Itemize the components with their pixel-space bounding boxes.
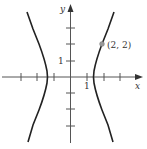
y-tick-label-1: 1 <box>58 56 64 66</box>
x-axis-arrow-icon <box>135 74 143 80</box>
point-2-2 <box>100 42 105 47</box>
point-label: (2, 2) <box>107 40 131 50</box>
x-tick-label-1: 1 <box>84 81 90 91</box>
x-axis-label: x <box>135 81 140 91</box>
y-axis-label: y <box>59 4 66 14</box>
y-axis-arrow-icon <box>68 4 74 12</box>
hyperbola-graph: (2, 2) x y 1 1 <box>0 0 147 149</box>
